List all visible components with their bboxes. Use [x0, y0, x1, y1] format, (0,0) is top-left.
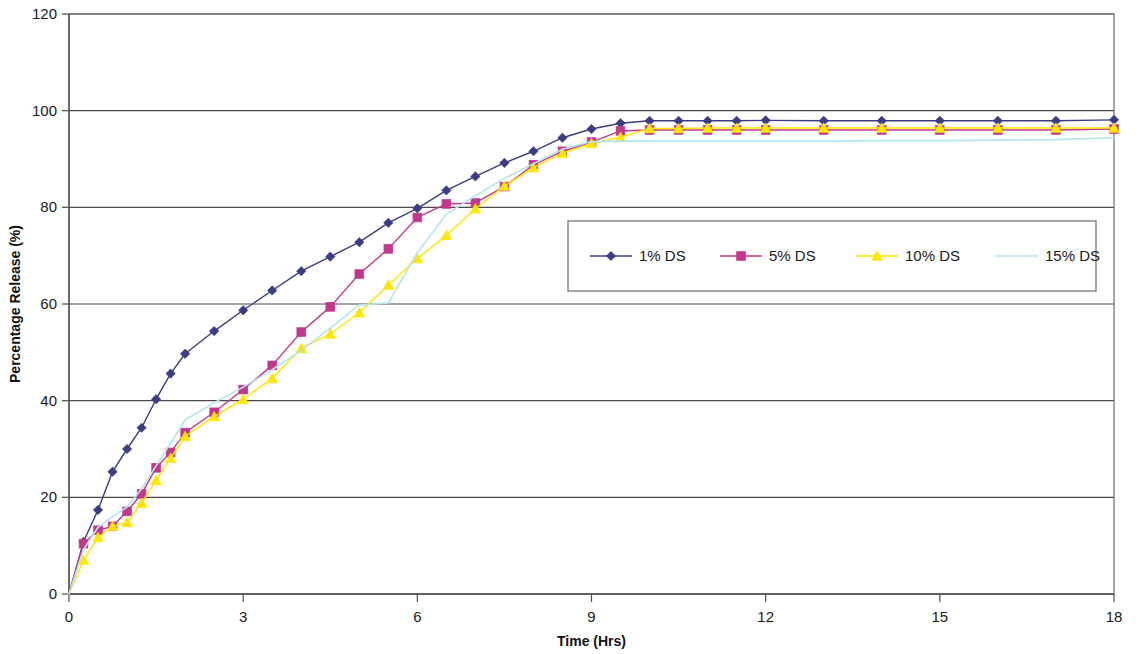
- chart-legend: 1% DS5% DS10% DS15% DS: [568, 221, 1100, 291]
- data-point-marker-1-ds-13: [326, 252, 335, 261]
- axis-titles-group: Time (Hrs)Percentage Release (%): [7, 225, 626, 649]
- data-point-marker-1-ds-2: [93, 505, 102, 514]
- x-axis-ticks-group: 0369121518: [65, 594, 1123, 625]
- legend-label-15-ds: 15% DS: [1045, 247, 1100, 264]
- y-tick-label: 20: [40, 488, 57, 505]
- x-tick-label: 15: [931, 608, 948, 625]
- data-point-marker-legend-5-ds-0: [737, 252, 746, 261]
- data-point-marker-1-ds-12: [297, 267, 306, 276]
- series-10-ds: [69, 123, 1119, 594]
- legend-label-5-ds: 5% DS: [769, 247, 816, 264]
- data-point-marker-1-ds-22: [587, 124, 596, 133]
- data-point-marker-10-ds-6: [151, 475, 161, 484]
- x-tick-label: 6: [413, 608, 421, 625]
- data-point-marker-5-ds-12: [297, 328, 306, 337]
- chart-figure: 020406080100120 0369121518 Time (Hrs)Per…: [0, 0, 1136, 654]
- data-point-marker-5-ds-17: [442, 200, 451, 209]
- series-group: [69, 115, 1119, 594]
- data-point-marker-5-ds-15: [384, 245, 393, 254]
- data-point-marker-1-ds-6: [151, 395, 160, 404]
- legend-label-1-ds: 1% DS: [639, 247, 686, 264]
- x-tick-label: 12: [757, 608, 774, 625]
- data-point-marker-1-ds-20: [529, 147, 538, 156]
- series-1-ds: [69, 115, 1119, 594]
- y-tick-label: 100: [32, 102, 57, 119]
- data-point-marker-1-ds-4: [122, 444, 131, 453]
- x-tick-label: 3: [239, 608, 247, 625]
- data-point-marker-1-ds-19: [500, 158, 509, 167]
- series-line-1-ds: [69, 120, 1114, 594]
- data-point-marker-5-ds-13: [326, 303, 335, 312]
- x-tick-label: 18: [1106, 608, 1123, 625]
- series-line-15-ds: [69, 138, 1114, 594]
- x-tick-label: 9: [587, 608, 595, 625]
- series-15-ds: [69, 138, 1114, 594]
- data-point-marker-10-ds-10: [238, 394, 248, 403]
- data-point-marker-1-ds-11: [268, 286, 277, 295]
- data-point-marker-1-ds-17: [442, 186, 451, 195]
- data-point-marker-5-ds-16: [413, 213, 422, 222]
- data-point-marker-5-ds-5: [137, 490, 146, 499]
- data-point-marker-1-ds-15: [384, 218, 393, 227]
- data-point-marker-1-ds-16: [413, 204, 422, 213]
- x-axis-title: Time (Hrs): [557, 633, 626, 649]
- data-point-marker-1-ds-14: [355, 238, 364, 247]
- series-line-5-ds: [69, 129, 1114, 594]
- y-tick-label: 40: [40, 392, 57, 409]
- y-tick-label: 120: [32, 5, 57, 22]
- data-point-marker-1-ds-21: [558, 133, 567, 142]
- line-chart-svg: 020406080100120 0369121518 Time (Hrs)Per…: [0, 0, 1136, 654]
- y-tick-label: 0: [49, 585, 57, 602]
- data-point-marker-1-ds-3: [108, 467, 117, 476]
- x-tick-label: 0: [65, 608, 73, 625]
- y-axis-ticks-group: 020406080100120: [32, 5, 69, 602]
- series-5-ds: [69, 125, 1118, 594]
- y-axis-title: Percentage Release (%): [7, 225, 23, 383]
- y-tick-label: 80: [40, 198, 57, 215]
- y-tick-label: 60: [40, 295, 57, 312]
- data-point-marker-1-ds-18: [471, 172, 480, 181]
- data-point-marker-1-ds-10: [239, 306, 248, 315]
- data-point-marker-1-ds-5: [137, 423, 146, 432]
- legend-label-10-ds: 10% DS: [905, 247, 960, 264]
- data-point-marker-5-ds-14: [355, 270, 364, 279]
- series-line-10-ds: [69, 128, 1114, 594]
